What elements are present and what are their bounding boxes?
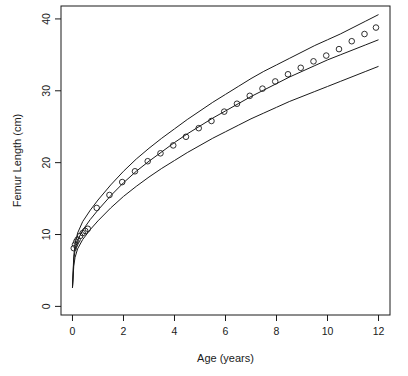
x-tick-label: 6 [223,325,229,337]
x-tick-label: 4 [172,325,178,337]
data-point [336,46,342,52]
x-tick-label: 12 [373,325,385,337]
chart-canvas: 024681012010203040Age (years)Femur Lengt… [0,0,408,376]
x-tick-label: 8 [274,325,280,337]
x-tick-label: 0 [70,325,76,337]
y-axis-title: Femur Length (cm) [11,114,23,208]
y-tick-label: 0 [40,303,52,309]
y-tick-label: 20 [40,157,52,169]
data-point [373,25,379,31]
data-point [362,31,368,37]
data-point [323,53,329,59]
data-point [349,38,355,44]
y-tick-label: 30 [40,85,52,97]
data-point [298,65,304,71]
x-axis-title: Age (years) [197,352,254,364]
x-tick-label: 2 [121,325,127,337]
data-point [285,71,291,77]
reference-curve [72,15,378,288]
reference-curve [72,40,378,288]
y-tick-label: 40 [40,13,52,25]
data-point [311,59,317,65]
femur-length-chart: 024681012010203040Age (years)Femur Lengt… [0,0,408,376]
plot-frame [61,6,390,315]
y-tick-label: 10 [40,229,52,241]
x-tick-label: 10 [322,325,334,337]
data-point-group [71,25,379,251]
